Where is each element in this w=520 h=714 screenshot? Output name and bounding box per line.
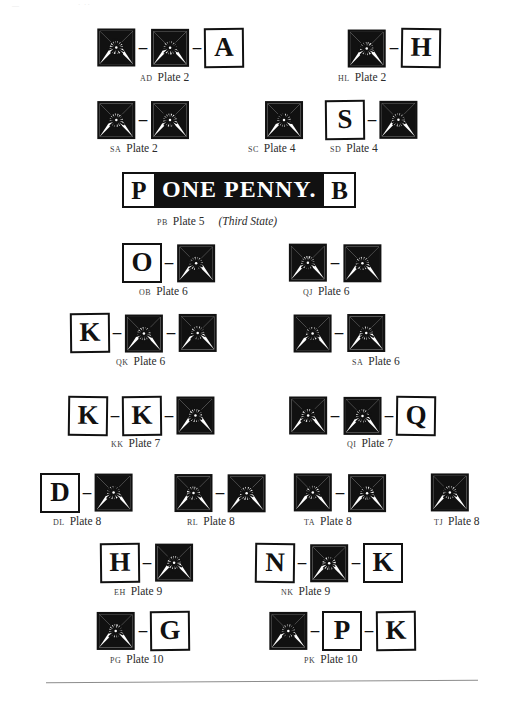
plate-group-qk-plate-6: K– – (70, 313, 218, 353)
star-cross-motif-icon (176, 396, 216, 436)
plate-caption-number: Plate 2 (158, 71, 190, 83)
plate-caption: TJPlate 8 (434, 515, 480, 527)
corner-letter-box-a: A (204, 28, 244, 68)
plate-caption-code: QI (347, 440, 356, 449)
star-cross-motif-icon (227, 473, 267, 513)
plate-caption: SAPlate 6 (352, 355, 400, 367)
corner-letter-box-k: K (363, 543, 403, 583)
separator-dash: – (329, 254, 341, 271)
plate-caption-code: QJ (303, 288, 313, 297)
plate-caption: SCPlate 4 (248, 142, 295, 154)
plate-group-sa-plate-2: – (96, 100, 190, 140)
banner-label-block: ONE PENNY. (156, 172, 322, 208)
banner-right-letter: B (331, 178, 348, 203)
plate-group-sc-plate-4 (264, 100, 304, 140)
corner-letter-box-n: N (255, 543, 295, 583)
plate-caption-code: AD (140, 74, 153, 83)
star-cross-motif-icon (94, 473, 134, 513)
plate-caption-code: HL (338, 74, 350, 83)
plate-caption: ADPlate 2 (140, 71, 189, 83)
star-cross-motif-icon (293, 473, 333, 513)
plate-group-hl-plate-2: –H (347, 28, 441, 68)
separator-dash: – (163, 254, 175, 271)
plate-caption-number: Plate 8 (203, 515, 235, 527)
banner-caption-state: (Third State) (218, 215, 277, 227)
corner-letter: K (131, 401, 152, 428)
separator-dash: – (334, 484, 346, 501)
star-cross-motif-icon (347, 28, 387, 68)
plate-caption-number: Plate 10 (320, 653, 357, 665)
separator-dash: – (350, 554, 362, 571)
separator-dash: – (81, 484, 93, 501)
plate-caption-number: Plate 7 (129, 437, 161, 449)
star-cross-motif-icon (154, 543, 194, 583)
star-cross-motif-icon (96, 28, 136, 68)
separator-dash: – (137, 622, 149, 639)
plate-caption-number: Plate 2 (126, 142, 158, 154)
plate-group-eh-plate-9: H– (100, 543, 194, 583)
plate-group-rl-plate-8: – (173, 473, 267, 513)
plate-caption-number: Plate 8 (70, 515, 102, 527)
corner-letter-box-k: K (70, 313, 110, 353)
star-cross-motif-icon (342, 243, 382, 283)
plate-caption-code: SA (110, 145, 121, 154)
banner-label-text: ONE PENNY. (162, 177, 316, 201)
plate-caption: QKPlate 6 (116, 355, 165, 367)
star-cross-motif-icon (96, 100, 136, 140)
corner-letter-box-h: H (100, 543, 140, 583)
separator-dash: – (366, 111, 378, 128)
separator-dash: – (214, 484, 226, 501)
star-cross-motif-icon (347, 473, 387, 513)
corner-letter: P (334, 617, 351, 644)
banner-left-letter: P (131, 178, 146, 203)
corner-letter: O (131, 249, 152, 276)
plate-caption-number: Plate 8 (448, 515, 480, 527)
plate-group-pg-plate-10: –G (96, 611, 190, 651)
plate-caption-number: Plate 6 (318, 285, 350, 297)
separator-dash: – (388, 39, 400, 56)
separator-dash: – (137, 111, 149, 128)
plate-group-kk-plate-7: K–K– (68, 396, 216, 436)
star-cross-motif-icon (176, 243, 216, 283)
plate-caption-code: PG (110, 656, 121, 665)
plate-caption: SDPlate 4 (330, 142, 378, 154)
corner-letter: D (50, 479, 70, 506)
plate-group-tj-plate-8 (430, 473, 470, 513)
corner-letter-box-g: G (150, 611, 190, 651)
one-penny-banner: P ONE PENNY. B (122, 172, 356, 208)
corner-letter: K (79, 318, 100, 345)
corner-letter: K (372, 549, 393, 576)
separator-dash: – (141, 554, 153, 571)
star-cross-motif-icon (264, 100, 304, 140)
star-cross-motif-icon (288, 243, 328, 283)
star-cross-motif-icon (150, 100, 190, 140)
scan-artifact-left: — (12, 2, 21, 10)
plate-caption-code: SD (330, 145, 341, 154)
plate-caption: DLPlate 8 (53, 515, 101, 527)
separator-dash: – (296, 554, 308, 571)
plate-caption: NKPlate 9 (281, 585, 330, 597)
star-cross-motif-icon (173, 473, 213, 513)
corner-letter-box-h: H (401, 28, 441, 68)
plate-group-dl-plate-8: D– (40, 473, 134, 513)
plate-caption: PGPlate 10 (110, 653, 164, 665)
plate-group-pk-plate-10: –P–K (268, 611, 416, 651)
corner-letter: Q (405, 401, 426, 428)
corner-letter-box-p: P (322, 611, 362, 651)
corner-letter-box-o: O (122, 243, 162, 283)
corner-letter: S (337, 105, 352, 132)
footer-rule (46, 680, 478, 684)
plate-caption-code: SA (352, 358, 363, 367)
separator-dash: – (111, 324, 123, 341)
corner-letter: K (385, 616, 406, 643)
corner-letter: G (159, 616, 180, 643)
plate-caption-code: DL (53, 518, 65, 527)
corner-letter: N (265, 548, 285, 575)
plate-caption-code: QK (116, 358, 129, 367)
star-cross-motif-icon (346, 313, 386, 353)
plate-group-qj-plate-6: – (288, 243, 382, 283)
plate-caption-code: KK (111, 440, 124, 449)
star-cross-motif-icon (430, 473, 470, 513)
plate-caption-code: TA (304, 518, 315, 527)
star-cross-motif-icon (379, 100, 419, 140)
